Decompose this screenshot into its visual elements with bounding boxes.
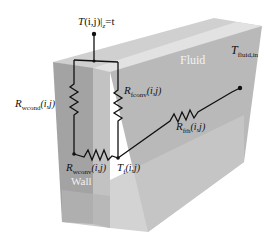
thermal-resistance-diagram: T(i,j)|z=t Rwcond(i,j) Rfconv(i,j) Rwcon… — [0, 0, 275, 249]
label-r-wcond: Rwcond(i,j) — [14, 97, 56, 112]
node-fluid-inlet — [238, 86, 242, 90]
node-top — [92, 32, 96, 36]
node-wcond-bottom — [72, 152, 76, 156]
label-wall-region: Wall — [71, 175, 92, 187]
front-face-lower-band — [62, 190, 110, 228]
node-fluid — [116, 156, 120, 160]
label-fluid-region: Fluid — [180, 53, 205, 67]
label-top-temperature: T(i,j)|z=t — [78, 15, 115, 30]
node-junction-top — [92, 59, 95, 62]
